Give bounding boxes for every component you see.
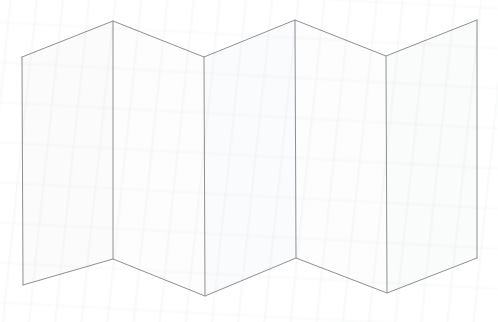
panel-3-face — [204, 20, 296, 296]
panel-1-face — [22, 21, 113, 285]
panel-2-face — [113, 21, 205, 296]
panel-5-face — [386, 20, 477, 293]
panel-4-face — [295, 20, 387, 293]
figure-canvas — [0, 0, 498, 322]
folded-paper-drawing — [0, 0, 498, 322]
panel-group — [22, 20, 477, 296]
